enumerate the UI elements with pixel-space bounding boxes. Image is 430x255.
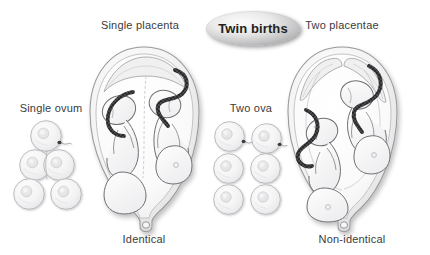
ova-stage-two (214, 154, 281, 184)
sperm-icon-right (278, 143, 288, 146)
uterus-non-identical-twins (288, 47, 397, 232)
ovum-stage-two-dividing (20, 150, 75, 181)
label-two-ova: Two ova (230, 103, 272, 114)
sperm-icon (57, 141, 71, 144)
ova-stage-three (214, 185, 281, 215)
label-single-ovum: Single ovum (20, 103, 83, 114)
ovum-stage-one (31, 121, 72, 152)
label-identical: Identical (123, 234, 166, 245)
single-ovum-diagram (14, 121, 82, 210)
figure-title: Twin births (218, 21, 287, 36)
label-non-identical: Non-identical (319, 234, 386, 245)
ova-stage-one (215, 122, 288, 154)
ovum-stage-three-separated (14, 179, 82, 210)
label-two-placentae: Two placentae (305, 20, 379, 31)
title-badge: Twin births (205, 11, 301, 46)
uterus-identical-twins (90, 47, 199, 232)
two-ova-diagram (214, 122, 288, 215)
twin-births-illustration: Single placenta Two placentae Single ovu… (0, 0, 430, 255)
label-single-placenta: Single placenta (101, 20, 179, 31)
